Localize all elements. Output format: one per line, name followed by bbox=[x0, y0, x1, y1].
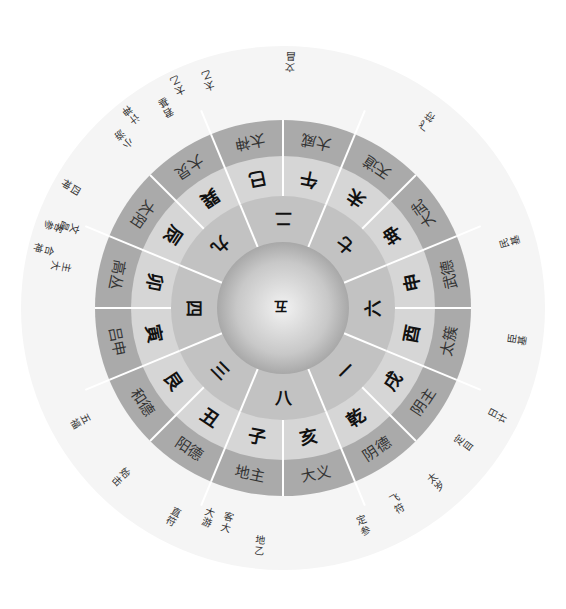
outer-label: 文昌 bbox=[286, 51, 297, 73]
branch-label: 寅 bbox=[143, 323, 164, 344]
outer-label: 地乙 bbox=[252, 533, 264, 556]
hub-label: 五 bbox=[274, 300, 288, 314]
branch-label: 巳 bbox=[247, 168, 268, 189]
number-label: 二 bbox=[275, 210, 292, 227]
number-label: 六 bbox=[365, 300, 382, 317]
branch-label: 午 bbox=[298, 168, 319, 189]
number-label: 四 bbox=[185, 300, 202, 317]
branch-label: 卯 bbox=[143, 272, 164, 293]
number-label: 八 bbox=[275, 390, 292, 407]
branch-label: 亥 bbox=[298, 427, 319, 448]
branch-label: 酉 bbox=[402, 323, 423, 344]
deity-label: 太神 bbox=[234, 131, 266, 152]
deity-label: 吕申 bbox=[106, 325, 127, 357]
